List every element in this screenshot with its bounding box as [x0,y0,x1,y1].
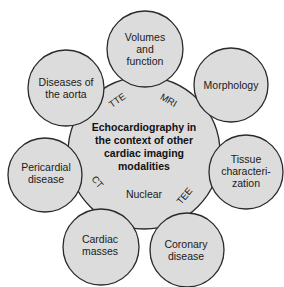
center-title-line-1: Echocardiography in [92,121,196,133]
pericardial-label-2: disease [28,173,64,185]
coronary-label-1: Coronary [164,238,208,250]
volumes-label-2: and [136,43,154,55]
aorta-label-1: Diseases of [39,76,94,88]
tissue-label-3: zation [232,177,260,189]
aorta-label-2: the aorta [45,88,87,100]
masses-label-1: Cardiac [82,233,118,245]
morphology-label: Morphology [204,79,260,91]
diagram-canvas: Echocardiography in the context of other… [0,0,284,287]
center-title-line-2: the context of other [95,134,193,146]
coronary-label-2: disease [168,250,204,262]
modality-nuclear: Nuclear [126,188,163,200]
tissue-label-2: characteri- [221,165,271,177]
tissue-label-1: Tissue [231,153,262,165]
volumes-label-1: Volumes [125,31,165,43]
volumes-label-3: function [127,55,164,67]
center-title-line-4: modalities [118,160,170,172]
center-title-line-3: cardiac imaging [104,147,184,159]
masses-label-2: masses [82,245,118,257]
pericardial-label-1: Pericardial [21,161,71,173]
